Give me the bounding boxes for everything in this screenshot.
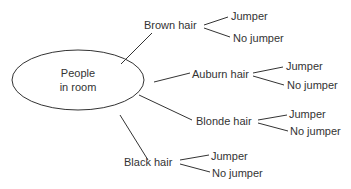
leaf-blonde-jumper: Jumper — [289, 108, 326, 120]
leaf-brown-jumper: Jumper — [231, 10, 268, 22]
root-label-line1: People — [38, 66, 118, 80]
leaf-blonde-no-jumper: No jumper — [290, 125, 341, 137]
branch-black-hair: Black hair — [124, 156, 172, 168]
leaf-auburn-no-jumper: No jumper — [287, 79, 338, 91]
leaf-brown-no-jumper: No jumper — [233, 32, 284, 44]
root-node: People in room — [38, 66, 118, 94]
branch-blonde-hair: Blonde hair — [196, 115, 252, 127]
tree-diagram: People in room Brown hair Jumper No jump… — [0, 0, 351, 189]
leaf-auburn-jumper: Jumper — [286, 60, 323, 72]
leaf-black-no-jumper: No jumper — [212, 167, 263, 179]
branch-auburn-hair: Auburn hair — [192, 68, 249, 80]
leaf-black-jumper: Jumper — [211, 150, 248, 162]
branch-brown-hair: Brown hair — [144, 19, 197, 31]
root-label-line2: in room — [38, 80, 118, 94]
